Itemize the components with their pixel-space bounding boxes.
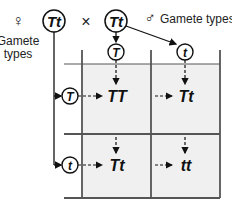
female-symbol: ♀ [12, 12, 24, 29]
female-genotype: Tt [47, 13, 62, 30]
female-gamete-label-line1: Gamete [0, 34, 40, 48]
cross-symbol: × [81, 13, 90, 30]
punnett-square-diagram: ♀ Gamete types Tt × Tt ♂ Gamete types T … [0, 0, 232, 209]
male-genotype: Tt [109, 13, 124, 30]
offspring-cell-Tt-bottom-left: Tt [109, 157, 125, 174]
male-gamete-connectors [116, 26, 176, 44]
offspring-cell-tt: tt [181, 157, 192, 174]
male-symbol: ♂ [144, 9, 155, 26]
female-gamete-label-line2: types [4, 47, 33, 61]
offspring-cell-TT: TT [107, 88, 128, 105]
female-gamete-connectors [54, 32, 61, 165]
male-gamete-label: Gamete types [160, 12, 232, 26]
offspring-cell-Tt-top-right: Tt [178, 88, 194, 105]
